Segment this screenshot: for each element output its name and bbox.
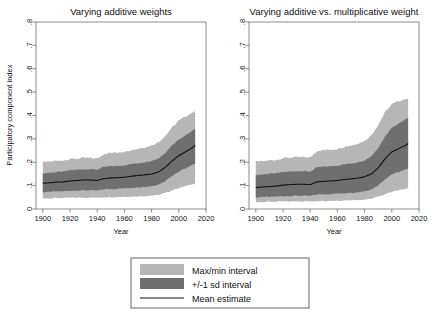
series-bands bbox=[256, 98, 408, 202]
data-bands-left bbox=[43, 111, 195, 199]
x-tick-label: 1960 bbox=[116, 214, 133, 223]
y-tick-label: .6 bbox=[238, 66, 247, 72]
legend-swatch bbox=[140, 278, 184, 289]
y-axis-title-left: Participatory component index bbox=[5, 64, 14, 165]
x-tick-label: 1920 bbox=[275, 214, 292, 223]
panel-title-left: Varying additive weights bbox=[70, 6, 172, 17]
y-tick-label: .5 bbox=[25, 89, 34, 95]
x-tick-label: 1960 bbox=[329, 214, 346, 223]
x-tick-label: 1980 bbox=[143, 214, 160, 223]
x-axis-title-right: Year bbox=[326, 227, 342, 236]
y-tick-label: .7 bbox=[25, 42, 34, 48]
y-tick-label: .6 bbox=[25, 66, 34, 72]
x-tick-label: 1980 bbox=[356, 214, 373, 223]
y-tick-label: .3 bbox=[238, 136, 247, 142]
legend-label: +/-1 sd interval bbox=[192, 280, 251, 290]
y-tick-label: .5 bbox=[238, 89, 247, 95]
x-tick-label: 1940 bbox=[302, 214, 319, 223]
figure-canvas: Varying additive weights Participatory c… bbox=[0, 0, 441, 326]
y-tick-label: .8 bbox=[238, 19, 247, 25]
y-tick-label: 0 bbox=[25, 207, 34, 211]
legend-items: Max/min interval+/-1 sd intervalMean est… bbox=[140, 264, 258, 304]
x-axis-title-left: Year bbox=[113, 227, 129, 236]
legend: Max/min interval+/-1 sd intervalMean est… bbox=[131, 258, 309, 308]
y-tick-label: 0 bbox=[238, 207, 247, 211]
panel-varying-additive-vs-multiplicative: Varying additive vs. multiplicative weig… bbox=[238, 6, 427, 236]
legend-label: Mean estimate bbox=[192, 294, 251, 304]
y-tick-label: .4 bbox=[238, 112, 247, 118]
data-bands-right bbox=[256, 98, 408, 202]
y-tick-label: .1 bbox=[25, 182, 34, 188]
x-tick-label: 1940 bbox=[89, 214, 106, 223]
y-tick-label: .4 bbox=[25, 112, 34, 118]
x-tick-label: 2000 bbox=[383, 214, 400, 223]
series-bands bbox=[43, 111, 195, 199]
y-tick-label: .2 bbox=[25, 159, 34, 165]
x-tick-label: 1900 bbox=[247, 214, 264, 223]
panel-title-right: Varying additive vs. multiplicative weig… bbox=[250, 6, 419, 17]
x-tick-label: 2000 bbox=[170, 214, 187, 223]
x-tick-label: 1920 bbox=[62, 214, 79, 223]
legend-swatch bbox=[140, 264, 184, 275]
y-tick-label: .3 bbox=[25, 136, 34, 142]
x-tick-label: 1900 bbox=[34, 214, 51, 223]
y-tick-label: .7 bbox=[238, 42, 247, 48]
y-tick-label: .8 bbox=[25, 19, 34, 25]
panel-varying-additive-weights: Varying additive weights Participatory c… bbox=[5, 6, 214, 236]
x-tick-label: 2020 bbox=[411, 214, 428, 223]
legend-label: Max/min interval bbox=[192, 266, 258, 276]
y-tick-label: .1 bbox=[238, 182, 247, 188]
x-tick-label: 2020 bbox=[198, 214, 215, 223]
y-tick-label: .2 bbox=[238, 159, 247, 165]
